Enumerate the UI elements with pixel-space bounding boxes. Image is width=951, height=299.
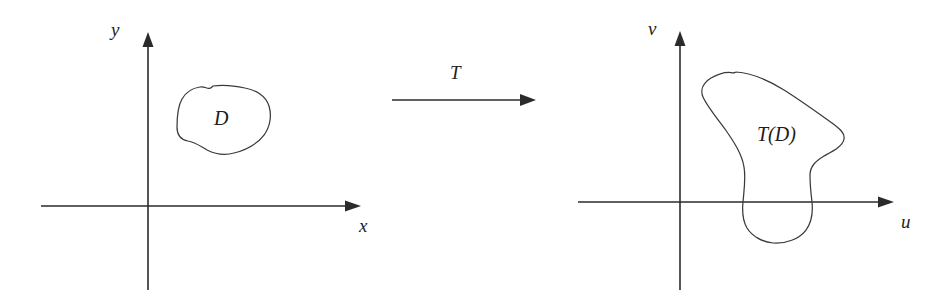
- region-td-outline: [702, 72, 844, 243]
- mapping-label: T: [450, 63, 461, 82]
- x-axis-arrowhead-icon: [345, 201, 361, 212]
- figure-canvas: [0, 0, 951, 299]
- y-axis-label: y: [111, 20, 119, 39]
- v-axis-arrowhead-icon: [675, 31, 686, 46]
- region-d-label: D: [214, 108, 228, 128]
- mapping-arrowhead-icon: [520, 94, 536, 106]
- mapping-arrow: [392, 94, 536, 106]
- right-plane-axes: [578, 31, 894, 290]
- u-axis-arrowhead-icon: [878, 197, 894, 208]
- y-axis-arrowhead-icon: [143, 32, 154, 47]
- region-td-label: T(D): [757, 124, 796, 144]
- x-axis-label: x: [359, 216, 367, 235]
- u-axis-label: u: [901, 212, 911, 231]
- v-axis-label: v: [648, 19, 656, 38]
- left-plane-axes: [41, 32, 361, 290]
- transformation-figure: y x D T v u T(D): [0, 0, 951, 299]
